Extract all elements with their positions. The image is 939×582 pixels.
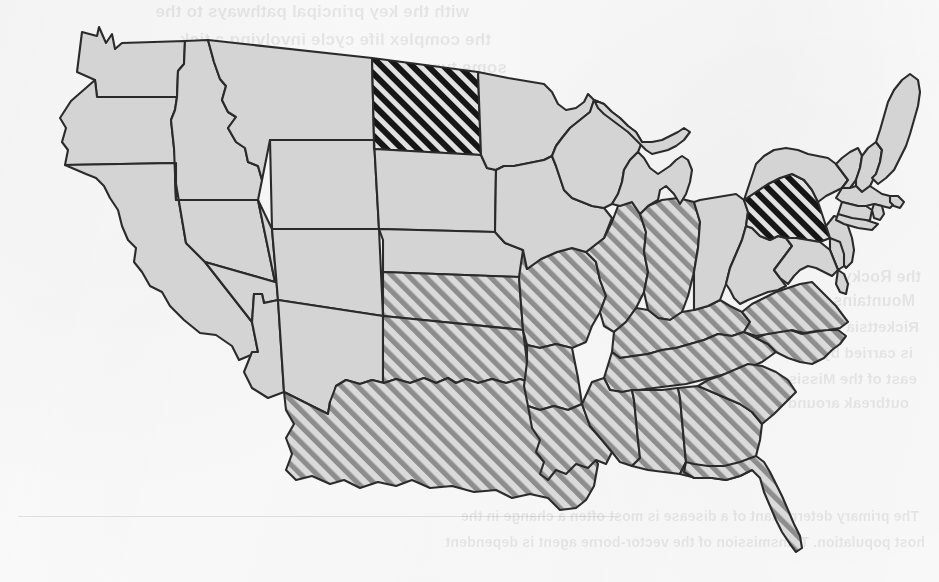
state-south-dakota: [374, 140, 496, 232]
state-florida: [684, 456, 802, 552]
state-arkansas: [524, 344, 582, 410]
state-alabama: [632, 388, 686, 474]
state-maine: [872, 74, 920, 184]
state-north-dakota-dark-hatched: [372, 58, 481, 155]
state-wyoming: [270, 140, 379, 229]
state-indiana: [640, 198, 700, 320]
state-virginia-eastern-shore: [836, 270, 848, 294]
state-rhode-island: [872, 204, 884, 220]
scanned-page: with the key principal pathways to theth…: [0, 0, 939, 582]
us-choropleth-map: [0, 0, 939, 582]
